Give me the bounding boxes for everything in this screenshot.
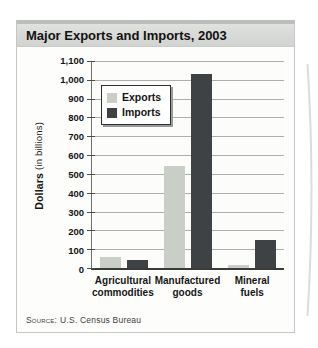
y-tick-label: 800 [68, 112, 84, 123]
y-tick-mark [87, 268, 95, 269]
y-tick-label: 1,000 [60, 74, 84, 85]
bar-exports [228, 265, 249, 268]
legend-swatch-exports [107, 93, 117, 103]
y-axis-label-column: Dollars (in billions) [29, 61, 49, 270]
y-tick-label: 400 [68, 188, 84, 199]
plot-area: ExportsImports [91, 61, 284, 270]
y-tick-label: 100 [68, 245, 84, 256]
bar-imports [127, 260, 148, 268]
y-tick-label: 1,100 [60, 55, 84, 66]
page-background: Major Exports and Imports, 2003 Dollars … [0, 0, 318, 348]
x-axis-category-label: Agriculturalcommodities [91, 275, 155, 299]
y-tick-label: 500 [68, 169, 84, 180]
x-axis-category-label: Manufacturedgoods [155, 275, 221, 299]
bar-exports [100, 257, 121, 268]
legend-label: Exports [122, 90, 161, 105]
page-edge-curl [304, 64, 317, 316]
bar-exports [164, 166, 185, 268]
y-axis-label-bold: Dollars [33, 172, 45, 209]
chart-card: Major Exports and Imports, 2003 Dollars … [16, 20, 295, 333]
source-label: Source: [26, 315, 57, 325]
y-axis-label: Dollars (in billions) [33, 122, 45, 210]
bar-imports [255, 240, 276, 268]
x-axis-category-label: Mineralfuels [220, 275, 284, 299]
legend: ExportsImports [101, 85, 171, 125]
bar-group [164, 61, 212, 268]
chart-region: Dollars (in billions) 010020030040050060… [29, 61, 284, 270]
legend-item-exports: Exports [107, 90, 161, 105]
y-tick-label: 900 [68, 93, 84, 104]
y-axis-ticks: 01002003004005006007008009001,0001,100 [49, 61, 91, 270]
legend-label: Imports [122, 105, 161, 120]
bar-imports [191, 74, 212, 268]
bar-group [228, 61, 276, 268]
legend-swatch-imports [107, 108, 117, 118]
y-tick-label: 200 [68, 226, 84, 237]
y-axis-label-units: (in billions) [33, 122, 44, 173]
source-text: U.S. Census Bureau [60, 315, 141, 325]
chart-title: Major Exports and Imports, 2003 [17, 24, 294, 47]
x-axis-labels: AgriculturalcommoditiesManufacturedgoods… [91, 275, 284, 299]
source-line: Source:U.S. Census Bureau [26, 315, 141, 325]
legend-item-imports: Imports [107, 105, 161, 120]
y-tick-label: 700 [68, 131, 84, 142]
y-tick-label: 0 [79, 264, 84, 275]
y-tick-label: 300 [68, 207, 84, 218]
y-tick-label: 600 [68, 150, 84, 161]
